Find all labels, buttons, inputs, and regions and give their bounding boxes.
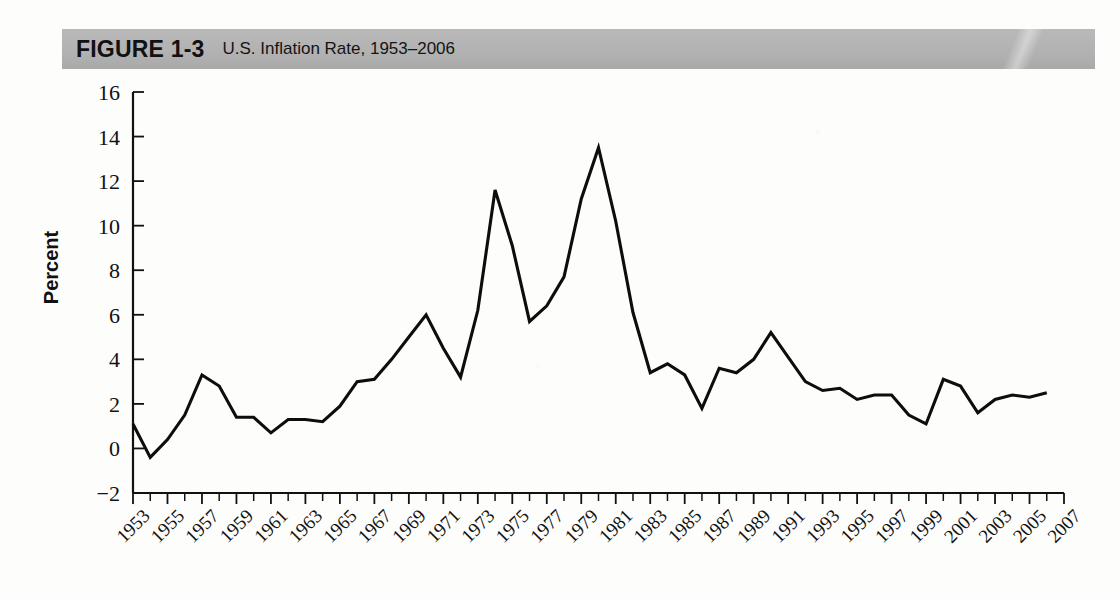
x-tick-label: 2001 <box>940 505 982 547</box>
x-tick-label: 1959 <box>216 505 258 547</box>
y-axis: 1614121086420−2 <box>97 80 144 506</box>
x-tick-label: 1985 <box>664 505 706 547</box>
x-tick-label: 1975 <box>491 505 533 547</box>
x-tick-label: 1987 <box>698 505 740 547</box>
x-tick-label: 1983 <box>629 505 671 547</box>
x-tick-label: 1973 <box>457 505 499 547</box>
figure-title-bar: FIGURE 1-3 U.S. Inflation Rate, 1953–200… <box>62 29 1095 69</box>
data-series-inflation <box>133 148 1047 458</box>
y-tick-label: 6 <box>109 303 120 328</box>
x-tick-label: 2007 <box>1043 505 1085 547</box>
x-tick-label: 2003 <box>974 505 1016 547</box>
x-tick-label: 1965 <box>319 505 361 547</box>
x-tick-label: 1999 <box>905 505 947 547</box>
inflation-rate-line <box>133 148 1047 458</box>
inflation-line-chart: 1614121086420−2 195319551957195919611963… <box>0 70 1120 600</box>
y-tick-label: 14 <box>98 125 120 150</box>
y-axis-title: Percent <box>40 230 62 304</box>
x-tick-label: 1989 <box>733 505 775 547</box>
y-tick-label: 0 <box>109 436 120 461</box>
x-tick-label: 1981 <box>595 505 637 547</box>
y-tick-label: 12 <box>98 169 120 194</box>
x-tick-label: 1961 <box>250 505 292 547</box>
x-axis: 1953195519571959196119631965196719691971… <box>112 493 1085 547</box>
y-tick-label: 10 <box>98 214 120 239</box>
figure-number-label: FIGURE 1-3 <box>76 36 205 63</box>
x-tick-label: 1971 <box>422 505 464 547</box>
y-tick-label: 8 <box>109 258 120 283</box>
x-tick-label: 1963 <box>285 505 327 547</box>
chart-area: 1614121086420−2 195319551957195919611963… <box>0 70 1120 600</box>
x-tick-label: 1995 <box>836 505 878 547</box>
x-tick-label: 2005 <box>1009 505 1051 547</box>
y-tick-label: 16 <box>98 80 120 105</box>
x-tick-label: 1969 <box>388 505 430 547</box>
x-tick-label: 1957 <box>181 505 223 547</box>
y-tick-label: −2 <box>97 481 120 506</box>
y-tick-label: 2 <box>109 392 120 417</box>
x-tick-label: 1977 <box>526 505 568 547</box>
x-tick-label: 1997 <box>871 505 913 547</box>
figure-page: FIGURE 1-3 U.S. Inflation Rate, 1953–200… <box>0 0 1120 600</box>
figure-caption-text: U.S. Inflation Rate, 1953–2006 <box>223 39 456 59</box>
x-tick-label: 1993 <box>802 505 844 547</box>
x-tick-label: 1991 <box>767 505 809 547</box>
x-tick-label: 1953 <box>112 505 154 547</box>
x-tick-label: 1967 <box>353 505 395 547</box>
y-tick-label: 4 <box>109 347 120 372</box>
x-tick-label: 1955 <box>147 505 189 547</box>
x-tick-label: 1979 <box>560 505 602 547</box>
